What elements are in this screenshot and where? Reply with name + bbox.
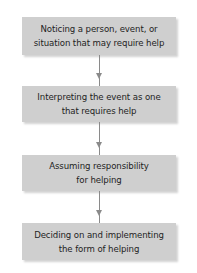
step-text-line: situation that may require help	[34, 36, 165, 50]
step-text-line: Interpreting the event as one	[37, 90, 160, 104]
step-text-line: Noticing a person, event, or	[34, 22, 165, 36]
step-text-line: Assuming responsibility	[49, 159, 149, 173]
step-text-line: the form of helping	[34, 242, 164, 256]
arrow-shaft	[99, 55, 100, 86]
step-text-line: for helping	[49, 173, 149, 187]
step-text: Deciding on and implementing the form of…	[34, 228, 164, 256]
arrow-down-icon	[98, 122, 101, 155]
arrowhead-icon	[96, 73, 102, 79]
arrowhead-icon	[96, 142, 102, 148]
arrow-shaft	[99, 191, 100, 223]
arrow-down-icon	[98, 55, 101, 86]
arrow-shaft	[99, 122, 100, 155]
step-text: Assuming responsibility for helping	[49, 159, 149, 187]
step-text: Noticing a person, event, or situation t…	[34, 22, 165, 50]
step-box-noticing: Noticing a person, event, or situation t…	[22, 17, 176, 55]
step-text-line: Deciding on and implementing	[34, 228, 164, 242]
step-box-interpreting: Interpreting the event as one that requi…	[22, 86, 176, 122]
arrow-down-icon	[98, 191, 101, 223]
step-text-line: that requires help	[37, 104, 160, 118]
step-box-assuming-responsibility: Assuming responsibility for helping	[22, 155, 176, 191]
step-text: Interpreting the event as one that requi…	[37, 90, 160, 118]
step-box-deciding-implementing: Deciding on and implementing the form of…	[22, 223, 176, 260]
arrowhead-icon	[96, 210, 102, 216]
